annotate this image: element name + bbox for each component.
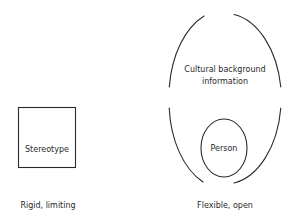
flexible-caption: Flexible, open: [180, 201, 270, 211]
diagram-canvas: [0, 0, 299, 223]
cultural-label-line2: information: [166, 77, 284, 87]
cultural-background-ellipse: [169, 15, 281, 184]
ellipse-arc-bottom-left: [169, 108, 203, 182]
stereotype-label: Stereotype: [18, 145, 76, 155]
stereotype-box: [19, 108, 76, 168]
person-label: Person: [201, 144, 247, 154]
cultural-label-line1: Cultural background: [166, 65, 284, 75]
rigid-caption: Rigid, limiting: [8, 201, 88, 211]
